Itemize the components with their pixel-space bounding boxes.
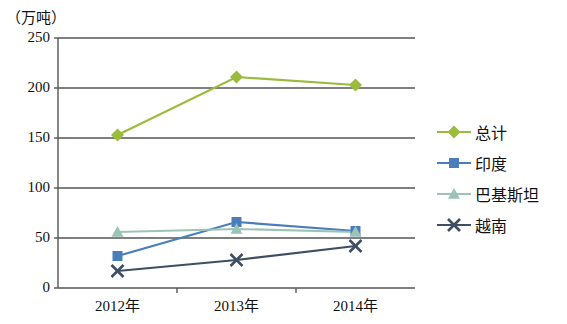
x-axis-tick-label: 2012年 (73, 299, 163, 314)
legend-item: 越南 (437, 216, 539, 234)
legend-marker-x-icon (437, 216, 471, 234)
legend-marker-triangle-icon (437, 185, 471, 203)
y-axis-tick-label: 100 (6, 180, 50, 195)
data-point-marker (349, 79, 362, 92)
y-axis-tick-label: 250 (6, 30, 50, 45)
legend-marker-square-icon (437, 154, 471, 172)
y-axis-tick-label: 50 (6, 230, 50, 245)
data-point-marker (448, 126, 461, 139)
y-axis-tick-label: 200 (6, 80, 50, 95)
legend-item: 总计 (437, 123, 539, 141)
legend-item: 巴基斯坦 (437, 185, 539, 203)
y-axis-tick-label: 0 (6, 280, 50, 295)
data-point-marker (111, 129, 124, 142)
y-axis-tick-label: 150 (6, 130, 50, 145)
data-point-marker (230, 71, 243, 84)
x-axis-tick-label: 2013年 (192, 299, 282, 314)
data-point-marker (449, 158, 459, 168)
legend-label: 总计 (475, 120, 507, 144)
series-lines (118, 77, 356, 271)
series-line (118, 77, 356, 135)
data-point-marker (113, 251, 123, 261)
legend-label: 印度 (475, 151, 507, 175)
legend-label: 越南 (475, 213, 507, 237)
legend-marker-diamond-icon (437, 123, 471, 141)
legend-label: 巴基斯坦 (475, 182, 539, 206)
chart-container: （万吨） 050100150200250 2012年2013年2014年 总计印… (0, 0, 567, 324)
chart-legend: 总计印度巴基斯坦越南 (437, 123, 539, 234)
x-axis-tick-label: 2014年 (311, 299, 401, 314)
legend-item: 印度 (437, 154, 539, 172)
axis-lines (54, 38, 296, 293)
